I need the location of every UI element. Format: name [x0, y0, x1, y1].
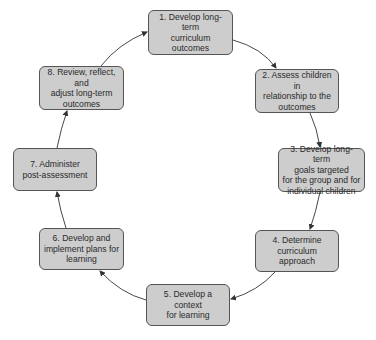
- arrow-7-to-8: [57, 111, 67, 148]
- arrow-1-to-2: [233, 40, 276, 68]
- arrow-3-to-4: [310, 192, 320, 229]
- step-8-box: 8. Review, reflect, and adjust long-term…: [39, 66, 124, 110]
- step-3-box: 3. Develop long-term goals targeted for …: [278, 148, 365, 192]
- arrow-6-to-7: [57, 192, 66, 228]
- step-7-box: 7. Administer post-assessment: [13, 148, 97, 191]
- step-4-box: 4. Determine curriculum approach: [255, 230, 339, 272]
- curriculum-cycle-diagram: 1. Develop long-term curriculum outcomes…: [0, 0, 376, 340]
- step-2-box: 2. Assess children in relationship to th…: [255, 69, 339, 113]
- arrow-4-to-5: [231, 272, 275, 299]
- step-6-box: 6. Develop and implement plans for learn…: [39, 228, 124, 270]
- arrow-8-to-1: [101, 32, 147, 66]
- arrow-2-to-3: [310, 113, 320, 147]
- step-5-box: 5. Develop a context for learning: [146, 284, 230, 326]
- step-1-box: 1. Develop long-term curriculum outcomes: [148, 10, 233, 55]
- arrow-5-to-6: [100, 271, 146, 300]
